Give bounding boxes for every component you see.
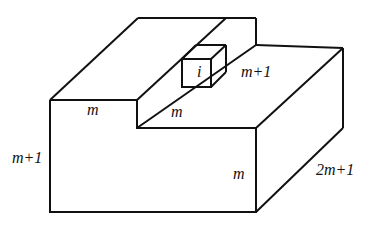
label-cube: i [197,64,201,80]
label-left-height: m+1 [12,150,42,166]
label-cube-depth: m+1 [241,64,271,80]
block-drawing [0,0,370,227]
label-right-depth: 2m+1 [316,162,354,178]
label-step-width: m [171,104,183,120]
block-diagram: m m i m+1 m+1 m 2m+1 [0,0,370,227]
label-front-right-height: m [233,166,245,182]
label-top-left-width: m [87,102,99,118]
